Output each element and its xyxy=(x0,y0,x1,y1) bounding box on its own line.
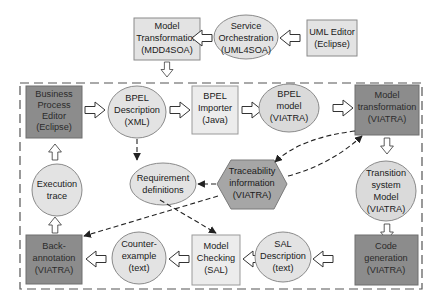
svg-text:Checking: Checking xyxy=(197,253,235,263)
svg-text:Importer: Importer xyxy=(198,103,232,113)
label: (MDD4SOA) xyxy=(141,45,193,55)
label: Process xyxy=(37,100,71,110)
svg-text:(UML4SOA): (UML4SOA) xyxy=(221,45,271,55)
node-uml-editor[interactable]: UML Editor (Eclipse) xyxy=(307,20,357,56)
svg-text:Back-: Back- xyxy=(42,241,66,251)
label: (VIATRA) xyxy=(367,265,406,275)
dashed-arrow xyxy=(275,131,355,162)
block-arrow-icon xyxy=(49,217,62,233)
node-transition-system-model[interactable]: Transition system Model (VIATRA) xyxy=(356,161,416,221)
node-sal-description[interactable]: SAL Description (text) xyxy=(255,232,311,282)
svg-text:Code: Code xyxy=(375,241,397,251)
node-bpel-description[interactable]: BPEL Description (XML) xyxy=(108,86,166,138)
label: (XML) xyxy=(124,117,149,127)
svg-text:Model: Model xyxy=(154,21,179,31)
label: Counter- xyxy=(121,239,157,249)
node-business-process-editor[interactable]: Business Process Editor (Eclipse) xyxy=(26,86,82,138)
label: system xyxy=(371,180,400,190)
node-execution-trace[interactable]: Execution trace xyxy=(32,164,82,216)
node-requirement-definitions[interactable]: Requirement definitions xyxy=(130,163,196,205)
node-counter-example[interactable]: Counter- example (text) xyxy=(112,232,166,284)
svg-text:Counter-: Counter- xyxy=(121,239,157,249)
node-model-checking[interactable]: Model Checking (SAL) xyxy=(192,235,240,285)
block-arrow-icon xyxy=(161,62,173,77)
label: (VIATRA) xyxy=(35,265,74,275)
node-service-orchestration[interactable]: Service Orchestration (UML4SOA) xyxy=(214,15,278,59)
svg-text:(Eclipse): (Eclipse) xyxy=(314,39,350,49)
svg-text:definitions: definitions xyxy=(142,185,184,195)
block-arrow-icon xyxy=(86,251,106,267)
node-model-transformation-viatra[interactable]: Model transformation (VIATRA) xyxy=(355,85,419,135)
svg-text:system: system xyxy=(371,180,400,190)
label: Model xyxy=(373,192,398,202)
label: (text) xyxy=(129,263,150,273)
svg-text:annotation: annotation xyxy=(33,253,76,263)
svg-text:trace: trace xyxy=(47,191,67,201)
label: BPEL xyxy=(125,93,149,103)
svg-text:UML Editor: UML Editor xyxy=(309,27,355,37)
svg-text:BPEL: BPEL xyxy=(125,93,149,103)
label: definitions xyxy=(142,185,184,195)
svg-text:Process: Process xyxy=(37,100,71,110)
label: model xyxy=(276,101,301,111)
workflow-diagram: Model Transformation (MDD4SOA) Service O… xyxy=(0,0,442,306)
label: Execution xyxy=(37,179,77,189)
label: Back- xyxy=(42,241,66,251)
svg-text:example: example xyxy=(122,251,157,261)
label: UML Editor xyxy=(309,27,355,37)
svg-text:information: information xyxy=(229,178,274,188)
svg-text:Transition: Transition xyxy=(366,168,406,178)
svg-text:(VIATRA): (VIATRA) xyxy=(35,265,74,275)
svg-text:(MDD4SOA): (MDD4SOA) xyxy=(141,45,193,55)
label: generation xyxy=(364,253,407,263)
dashed-arrow xyxy=(288,136,362,176)
label: Importer xyxy=(198,103,232,113)
svg-text:(Java): (Java) xyxy=(202,115,228,125)
svg-text:(text): (text) xyxy=(273,263,294,273)
label: (UML4SOA) xyxy=(221,45,271,55)
label: Business xyxy=(35,89,73,99)
node-bpel-importer[interactable]: BPEL Importer (Java) xyxy=(192,86,238,134)
label: (VIATRA) xyxy=(270,113,309,123)
label: annotation xyxy=(33,253,76,263)
label: Transition xyxy=(366,168,406,178)
svg-text:Traceability: Traceability xyxy=(229,166,276,176)
label: Orchestration xyxy=(218,33,273,43)
node-code-generation[interactable]: Code generation (VIATRA) xyxy=(355,235,418,285)
block-arrow-icon xyxy=(333,100,353,116)
label: (Eclipse) xyxy=(36,122,72,132)
label: transformation xyxy=(358,102,417,112)
block-arrow-icon xyxy=(313,251,333,267)
svg-text:(VIATRA): (VIATRA) xyxy=(233,190,272,200)
label: trace xyxy=(47,191,67,201)
svg-text:Model: Model xyxy=(374,90,399,100)
label: Model xyxy=(203,241,228,251)
node-traceability-information[interactable]: Traceability information (VIATRA) xyxy=(217,160,287,209)
svg-text:Business: Business xyxy=(35,89,73,99)
svg-text:(Eclipse): (Eclipse) xyxy=(36,122,72,132)
label: (VIATRA) xyxy=(233,190,272,200)
node-model-transformation-mdd4soa[interactable]: Model Transformation (MDD4SOA) xyxy=(134,18,200,60)
node-bpel-model[interactable]: BPEL model (VIATRA) xyxy=(259,84,319,132)
label: Requirement xyxy=(137,173,190,183)
label: Traceability xyxy=(229,166,276,176)
block-arrow-icon xyxy=(49,144,62,160)
label: Description xyxy=(260,251,306,261)
svg-text:Model: Model xyxy=(373,192,398,202)
node-back-annotation[interactable]: Back- annotation (VIATRA) xyxy=(26,235,82,284)
svg-text:(VIATRA): (VIATRA) xyxy=(368,114,407,124)
svg-text:Editor: Editor xyxy=(42,111,66,121)
label: (SAL) xyxy=(204,265,228,275)
svg-text:Transformation: Transformation xyxy=(136,33,197,43)
svg-text:Description: Description xyxy=(260,251,306,261)
svg-text:Orchestration: Orchestration xyxy=(218,33,273,43)
label: (Eclipse) xyxy=(314,39,350,49)
svg-text:(VIATRA): (VIATRA) xyxy=(270,113,309,123)
block-arrow-icon xyxy=(280,30,300,46)
label: BPEL xyxy=(203,91,227,101)
svg-text:(VIATRA): (VIATRA) xyxy=(367,265,406,275)
label: Editor xyxy=(42,111,66,121)
label: Model xyxy=(154,21,179,31)
svg-text:SAL: SAL xyxy=(274,239,291,249)
svg-text:Requirement: Requirement xyxy=(137,173,190,183)
